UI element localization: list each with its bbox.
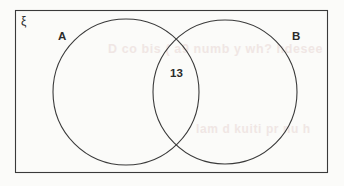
set-b-circle xyxy=(153,20,297,164)
intersection-count-label: 13 xyxy=(170,67,183,79)
set-a-circle xyxy=(53,19,199,165)
set-a-label: A xyxy=(58,30,66,42)
venn-diagram-scan: D co bis ( a9 numb y wh? hdesee lam d ku… xyxy=(0,0,344,186)
venn-diagram-graphic xyxy=(0,0,344,186)
set-b-label: B xyxy=(292,30,300,42)
universal-set-label: ξ xyxy=(21,14,26,28)
